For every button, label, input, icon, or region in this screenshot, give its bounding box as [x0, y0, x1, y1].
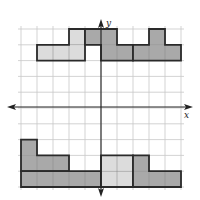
shape-bottom-left-lower-dark	[21, 171, 101, 187]
shape-top-right-dark	[133, 29, 181, 61]
x-axis-label: x	[184, 110, 189, 120]
shape-bottom-right-dark	[133, 155, 181, 187]
shape-bottom-left-upper-dark	[21, 140, 69, 172]
shape-top-middle-dark	[85, 29, 133, 61]
y-axis-label: y	[105, 18, 112, 28]
shape-top-left-light	[37, 29, 85, 61]
shape-bottom-center-light	[101, 155, 133, 187]
coordinate-grid-diagram: x y	[0, 0, 200, 200]
